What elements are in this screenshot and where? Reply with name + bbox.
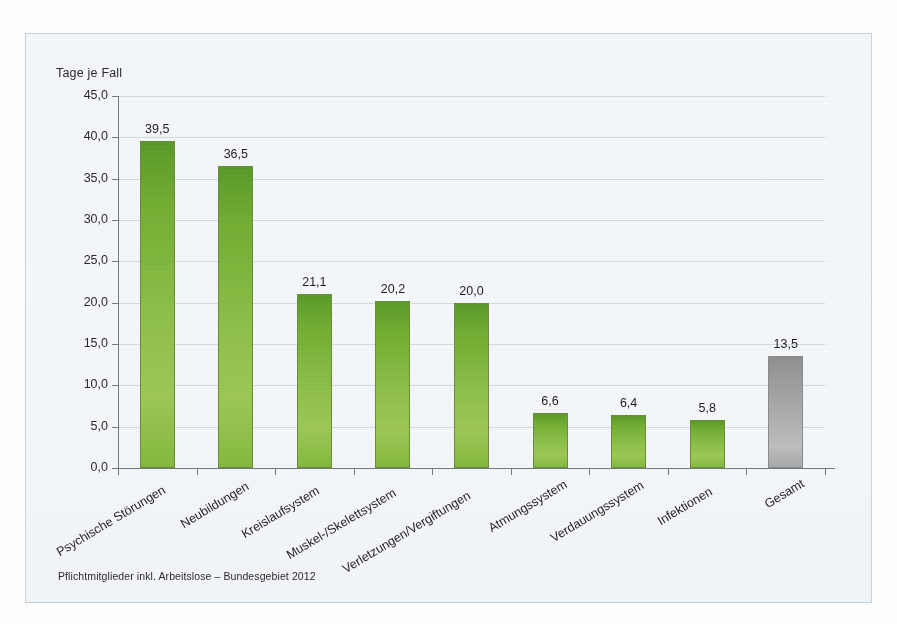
chart-page: Tage je Fall 45,040,035,030,025,020,015,… bbox=[0, 0, 897, 630]
bar-value-label: 20,0 bbox=[432, 284, 512, 298]
y-axis-tick-label: 40,0 bbox=[56, 129, 108, 143]
category-label: Psychische Störungen bbox=[54, 483, 168, 559]
gridline bbox=[118, 137, 825, 138]
bar bbox=[533, 413, 568, 468]
y-axis-tick-label: 45,0 bbox=[56, 88, 108, 102]
category-label: Gesamt bbox=[762, 476, 807, 511]
gridline bbox=[118, 96, 825, 97]
y-axis-tick-label: 35,0 bbox=[56, 171, 108, 185]
y-axis-tick bbox=[112, 344, 119, 345]
bar-value-label: 39,5 bbox=[117, 122, 197, 136]
bar bbox=[768, 356, 803, 468]
y-axis-tick bbox=[112, 303, 119, 304]
bar-value-label: 6,4 bbox=[589, 396, 669, 410]
category-label: Infektionen bbox=[655, 484, 715, 528]
y-axis-tick-label: 30,0 bbox=[56, 212, 108, 226]
y-axis-tick-label: 25,0 bbox=[56, 253, 108, 267]
y-axis-tick bbox=[112, 179, 119, 180]
y-axis-tick bbox=[112, 96, 119, 97]
bar bbox=[375, 301, 410, 468]
y-axis-tick-label: 20,0 bbox=[56, 295, 108, 309]
y-axis-line bbox=[118, 96, 119, 469]
y-axis-tick-label: 10,0 bbox=[56, 377, 108, 391]
category-label: Kreislaufsystem bbox=[239, 484, 322, 541]
bar bbox=[454, 303, 489, 468]
y-axis-labels: 45,040,035,030,025,020,015,010,05,00,0 bbox=[52, 96, 108, 468]
y-axis-tick bbox=[112, 220, 119, 221]
bar bbox=[611, 415, 646, 468]
x-axis-category-labels: Psychische StörungenNeubildungenKreislau… bbox=[0, 474, 897, 564]
bar bbox=[297, 294, 332, 468]
y-axis-title: Tage je Fall bbox=[56, 66, 122, 80]
y-axis-tick bbox=[112, 137, 119, 138]
bar-value-label: 5,8 bbox=[667, 401, 747, 415]
bar-value-label: 20,2 bbox=[353, 282, 433, 296]
y-axis-tick bbox=[112, 385, 119, 386]
bar bbox=[218, 166, 253, 468]
bar-value-label: 6,6 bbox=[510, 394, 590, 408]
bar-value-label: 36,5 bbox=[196, 147, 276, 161]
bar-value-label: 21,1 bbox=[274, 275, 354, 289]
y-axis-tick-label: 15,0 bbox=[56, 336, 108, 350]
y-axis-tick-label: 0,0 bbox=[56, 460, 108, 474]
bar bbox=[690, 420, 725, 468]
category-label: Neubildungen bbox=[178, 479, 251, 531]
x-axis-line bbox=[118, 468, 835, 469]
footnote: Pflichtmitglieder inkl. Arbeitslose – Bu… bbox=[58, 570, 316, 582]
category-label: Verletzungen/Vergiftungen bbox=[340, 488, 473, 576]
bar bbox=[140, 141, 175, 468]
bar-value-label: 13,5 bbox=[746, 337, 826, 351]
y-axis-tick bbox=[112, 261, 119, 262]
y-axis-tick bbox=[112, 427, 119, 428]
y-axis-tick-label: 5,0 bbox=[56, 419, 108, 433]
